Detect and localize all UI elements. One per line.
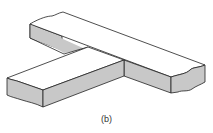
t-joint-diagram bbox=[0, 0, 213, 110]
figure-caption: (b) bbox=[0, 114, 213, 124]
